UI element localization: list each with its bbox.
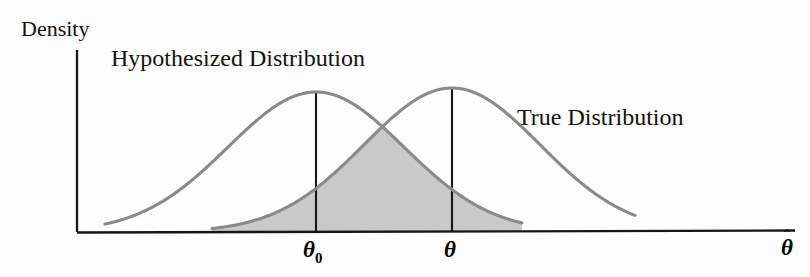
theta0-tick-label: θ0 [303,238,322,266]
circumflex-accent-icon: ˆ [784,227,790,244]
hypothesized-distribution-label: Hypothesized Distribution [111,46,365,70]
distribution-plot-svg [0,0,810,277]
theta0-subscript: 0 [315,250,323,266]
theta0-symbol: θ [303,237,315,262]
x-axis-line [77,231,795,233]
y-axis-label: Density [21,18,89,40]
theta-tick-label: θ [444,238,456,261]
true-distribution-label: True Distribution [517,105,683,129]
theta-hat-axis-label: ˆθ [781,236,793,259]
theta-hat-glyph: ˆθ [781,236,793,259]
density-distribution-figure: Density Hypothesized Distribution True D… [0,0,810,277]
